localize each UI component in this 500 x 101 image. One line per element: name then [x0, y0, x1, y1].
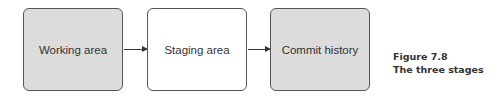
node-staging-area: Staging area [147, 8, 247, 91]
arrow-working-to-staging [124, 49, 147, 50]
figure-number: Figure 7.8 [393, 51, 448, 62]
node-commit-history: Commit history [270, 8, 370, 91]
node-label: Working area [39, 44, 107, 56]
node-working-area: Working area [23, 8, 123, 91]
node-label: Commit history [282, 44, 359, 56]
figure-title: The three stages [393, 64, 484, 75]
arrow-staging-to-commit [248, 49, 270, 50]
node-label: Staging area [164, 44, 229, 56]
